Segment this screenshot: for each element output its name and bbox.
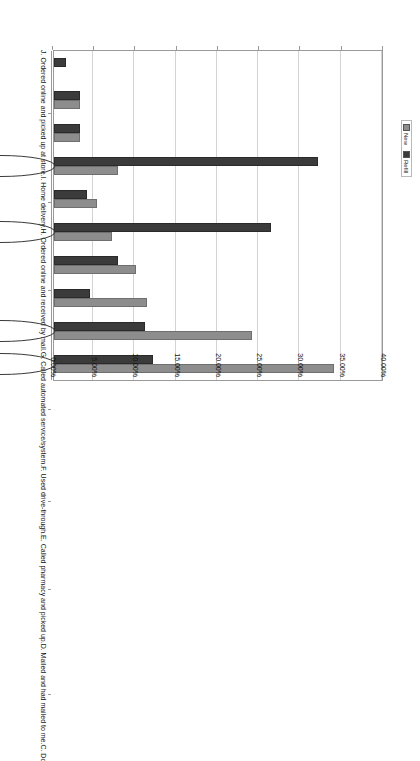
y-axis-tick-mark <box>135 46 136 50</box>
legend-swatch-new-icon <box>403 124 410 131</box>
y-axis-tick-mark <box>341 46 342 50</box>
x-axis-tick-mark <box>48 694 51 695</box>
category-label-cell: E. Called pharmacy and picked up. <box>1 535 51 644</box>
bar-refill <box>54 256 118 265</box>
x-axis-tick-mark <box>48 589 51 590</box>
bar-group <box>54 216 382 249</box>
category-label: J. Ordered online and picked up at store… <box>1 50 47 176</box>
category-label: H. Ordered online and received by mail. <box>1 228 47 351</box>
x-axis-tick-mark <box>48 113 51 114</box>
y-axis-tick-label: 25.00% <box>256 331 263 377</box>
category-label-cell: I. Home delivery. <box>1 176 51 228</box>
y-axis-tick-mark <box>52 46 53 50</box>
category-label-cell: G. Called automated service/system. <box>1 352 51 466</box>
y-axis-tick-label: 35.00% <box>338 331 345 377</box>
y-axis-tick-mark <box>258 46 259 50</box>
bar-new <box>54 199 97 208</box>
bar-new <box>54 298 147 307</box>
legend-item-new: New <box>403 124 410 145</box>
category-label: G. Called automated service/system. <box>1 352 47 466</box>
legend-item-refill: Refill <box>403 151 410 173</box>
y-axis-tick-label: 30.00% <box>297 331 304 377</box>
bar-refill <box>54 124 80 133</box>
category-label-cell: C. Doctor's office called and picked up. <box>1 744 51 761</box>
legend-swatch-refill-icon <box>403 151 410 158</box>
bar-new <box>54 232 112 241</box>
y-axis-tick-label: 15.00% <box>173 331 180 377</box>
bar-new <box>54 100 80 109</box>
y-axis-tick-label: 40.00% <box>380 331 387 377</box>
category-label: C. Doctor's office called and picked up. <box>1 744 47 761</box>
x-axis-tick-mark <box>48 501 51 502</box>
x-axis-tick-mark <box>48 409 51 410</box>
legend-label-new: New <box>404 133 410 145</box>
bar-new <box>54 265 137 274</box>
bar-refill <box>54 190 87 199</box>
category-label-cell: J. Ordered online and picked up at store… <box>1 50 51 176</box>
y-axis-tick-mark <box>382 46 383 50</box>
y-axis-tick-mark <box>300 46 301 50</box>
category-label: D. Mailed and had mailed to me. <box>1 644 47 745</box>
bar-refill <box>54 157 318 166</box>
bar-refill <box>54 58 66 67</box>
x-axis-tick-mark <box>48 202 51 203</box>
bar-group <box>54 51 382 84</box>
bar-refill <box>54 91 80 100</box>
bar-group <box>54 281 382 314</box>
y-axis-tick-label: 10.00% <box>132 331 139 377</box>
legend-label-refill: Refill <box>404 160 410 173</box>
y-axis-tick-label: 20.00% <box>215 331 222 377</box>
bar-refill <box>54 223 271 232</box>
bar-refill <box>54 289 90 298</box>
bar-group <box>54 248 382 281</box>
bar-new <box>54 133 80 142</box>
bar-group <box>54 150 382 183</box>
y-axis-tick-label: 5.00% <box>91 331 98 377</box>
bar-group <box>54 117 382 150</box>
category-label-cell: F. Used drive-through. <box>1 466 51 535</box>
bar-new <box>54 331 252 340</box>
category-label: I. Home delivery. <box>1 176 47 228</box>
chart-legend: New Refill <box>401 120 412 177</box>
category-label-cell: D. Mailed and had mailed to me. <box>1 644 51 745</box>
x-axis-tick-mark <box>48 290 51 291</box>
category-label: E. Called pharmacy and picked up. <box>1 535 47 644</box>
rotated-chart-wrapper: New Refill 0.00%5.00%10.00%15.00%20.00%2… <box>0 0 420 761</box>
category-axis-labels: J. Ordered online and picked up at store… <box>1 50 51 381</box>
bar-group <box>54 84 382 117</box>
bar-group <box>54 183 382 216</box>
category-label: F. Used drive-through. <box>1 466 47 535</box>
y-axis-tick-mark <box>93 46 94 50</box>
bar-new <box>54 166 118 175</box>
bar-refill <box>54 322 145 331</box>
y-axis-tick-mark <box>176 46 177 50</box>
chart-area: New Refill 0.00%5.00%10.00%15.00%20.00%2… <box>0 0 420 761</box>
y-axis-tick-mark <box>217 46 218 50</box>
chart-page: New Refill 0.00%5.00%10.00%15.00%20.00%2… <box>0 0 420 761</box>
category-label-cell: H. Ordered online and received by mail. <box>1 228 51 351</box>
